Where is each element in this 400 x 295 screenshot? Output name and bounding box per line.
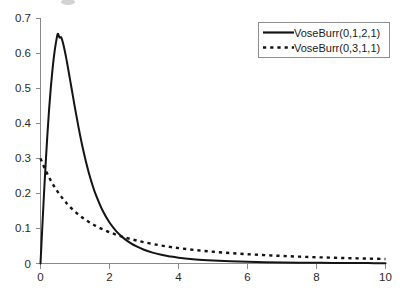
y-axis-ticks (36, 18, 41, 263)
x-tick-label: 10 (379, 271, 392, 283)
y-tick-label: 0 (25, 258, 31, 270)
series-line-voseburr-0-3-1-1 (41, 158, 386, 259)
x-axis-ticks (41, 264, 386, 269)
series-group (41, 34, 386, 264)
y-tick-label: 0.4 (15, 117, 32, 129)
top-edge-artifact (61, 0, 75, 5)
y-tick-label: 0.3 (15, 152, 31, 164)
y-tick-label: 0.7 (15, 12, 31, 24)
burr-distribution-chart: 0 0.1 0.2 0.3 0.4 0.5 0.6 0.7 0 2 4 6 8 … (0, 0, 400, 295)
y-tick-label: 0.2 (15, 187, 31, 199)
chart-canvas: 0 0.1 0.2 0.3 0.4 0.5 0.6 0.7 0 2 4 6 8 … (0, 0, 400, 295)
x-tick-label: 0 (37, 271, 43, 283)
y-tick-label: 0.5 (15, 82, 31, 94)
y-tick-label: 0.1 (15, 222, 31, 234)
x-tick-label: 4 (175, 271, 182, 283)
legend-label: VoseBurr(0,1,2,1) (294, 27, 380, 39)
series-line-voseburr-0-1-2-1 (41, 34, 386, 264)
x-tick-label: 6 (244, 271, 250, 283)
legend: VoseBurr(0,1,2,1) VoseBurr(0,3,1,1) (259, 23, 390, 58)
x-tick-label: 2 (106, 271, 112, 283)
y-tick-label: 0.6 (15, 47, 31, 59)
y-axis-tick-labels: 0 0.1 0.2 0.3 0.4 0.5 0.6 0.7 (15, 12, 32, 269)
x-axis-tick-labels: 0 2 4 6 8 10 (37, 271, 392, 283)
legend-label: VoseBurr(0,3,1,1) (294, 42, 380, 54)
x-tick-label: 8 (313, 271, 319, 283)
